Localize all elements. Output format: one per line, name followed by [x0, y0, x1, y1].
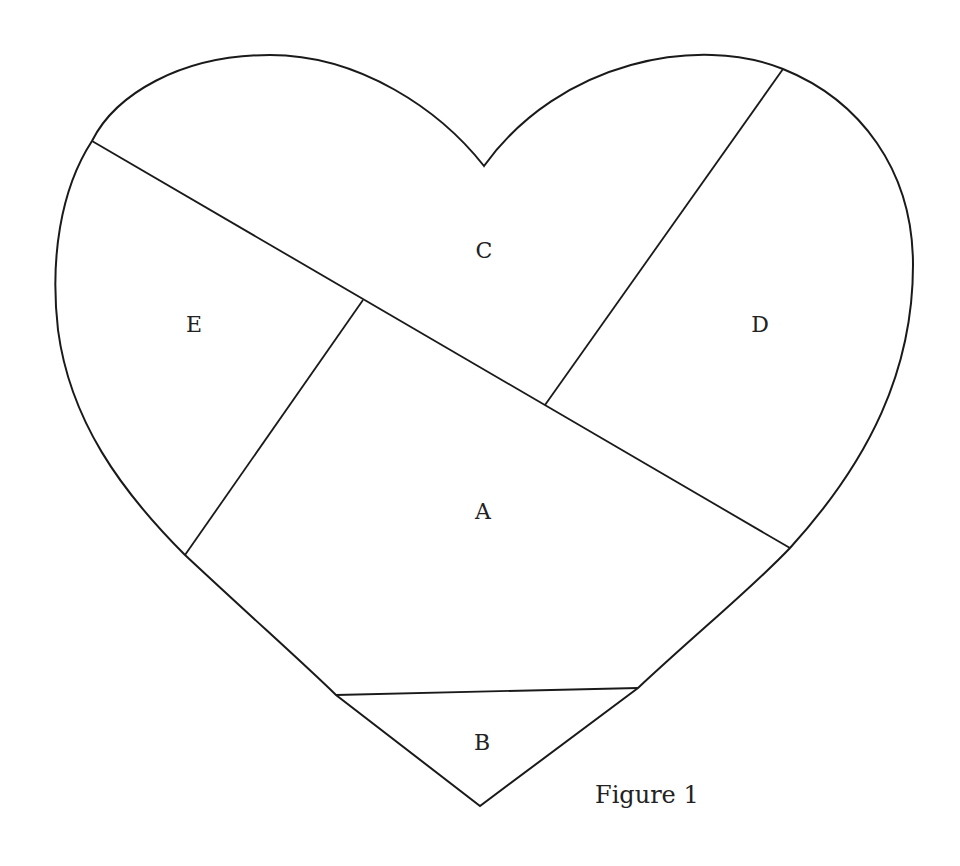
heart-outline [55, 55, 913, 806]
line-d-boundary [545, 69, 783, 405]
region-label-b: B [474, 732, 490, 754]
region-label-c: C [476, 240, 493, 262]
line-e-boundary [185, 300, 363, 555]
line-b-boundary [336, 688, 638, 695]
region-label-d: D [751, 314, 769, 336]
figure-caption: Figure 1 [595, 783, 699, 807]
heart-figure: C E D A B Figure 1 [0, 0, 960, 866]
region-label-a: A [475, 501, 491, 523]
region-label-e: E [186, 314, 202, 336]
diagonal-line-c-boundary [92, 141, 790, 548]
